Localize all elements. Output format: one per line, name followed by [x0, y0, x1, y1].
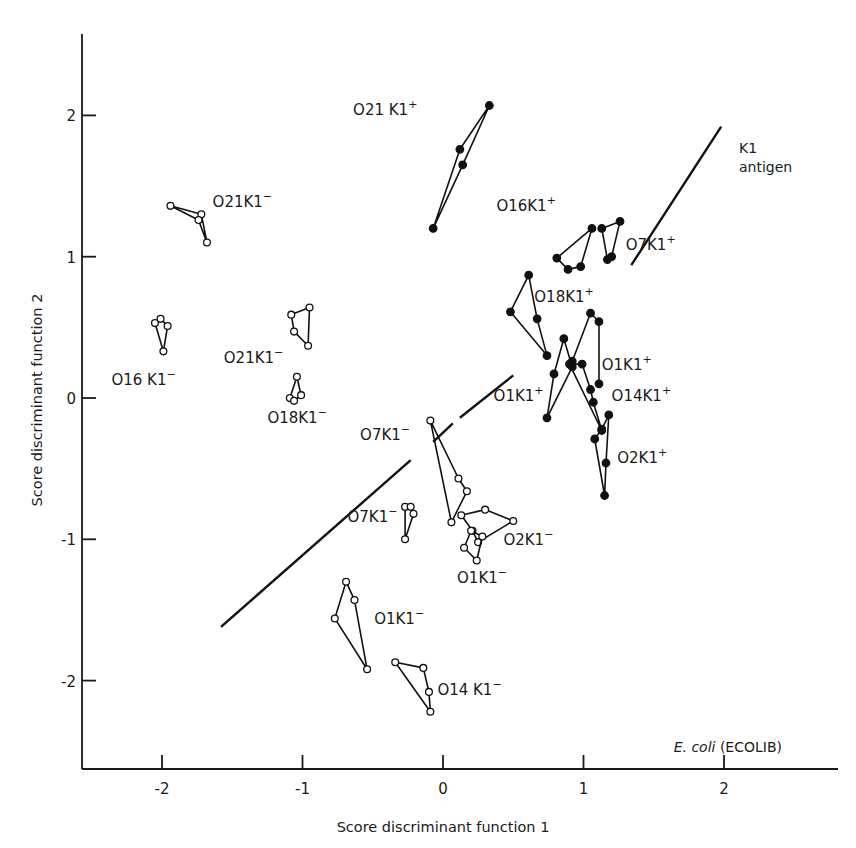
library-name: (ECOLIB)	[715, 739, 782, 755]
organism-name: E. coli	[674, 739, 716, 755]
group-o18k1: O18K1+	[507, 271, 594, 359]
open-point-marker	[426, 689, 433, 696]
group-outline	[335, 582, 367, 670]
group-o21k1-middle: O21K1−	[224, 304, 313, 367]
filled-point-marker	[595, 318, 603, 326]
group-label: O21 K1+	[353, 98, 417, 119]
filled-point-marker	[543, 414, 551, 422]
group-outline	[557, 228, 592, 269]
group-label: O2K1−	[503, 528, 553, 549]
data-groups: O21 K1+O16K1+O7K1+O18K1+O1K1+O1K1+O14K1+…	[111, 98, 675, 715]
group-label: O16 K1−	[111, 368, 175, 389]
group-label: O14K1+	[612, 384, 672, 405]
open-point-marker	[306, 304, 313, 311]
y-tick-label: 1	[66, 249, 76, 267]
filled-point-marker	[456, 146, 464, 154]
filled-point-marker	[587, 386, 595, 394]
group-label: O1K1+	[494, 384, 544, 405]
open-point-marker	[420, 664, 427, 671]
group-label: O18K1+	[534, 285, 594, 306]
open-point-marker	[298, 392, 305, 399]
open-point-marker	[427, 417, 434, 424]
group-outline	[430, 421, 467, 523]
open-point-marker	[291, 328, 298, 335]
axes	[82, 34, 838, 769]
group-label: O2K1+	[617, 446, 667, 467]
filled-point-marker	[553, 254, 561, 262]
y-tick-label: -2	[61, 673, 76, 691]
open-point-marker	[351, 597, 358, 604]
filled-point-marker	[566, 360, 574, 368]
group-outline	[547, 339, 572, 418]
filled-point-marker	[543, 352, 551, 360]
group-o21k1-upper: O21K1−	[167, 190, 272, 246]
filled-point-marker	[591, 435, 599, 443]
open-point-marker	[160, 348, 167, 355]
filled-point-marker	[459, 161, 467, 169]
filled-point-marker	[602, 459, 610, 467]
group-label: O21K1−	[213, 190, 273, 211]
filled-point-marker	[595, 380, 603, 388]
open-point-marker	[204, 239, 211, 246]
filled-point-marker	[605, 411, 613, 419]
open-point-marker	[458, 512, 465, 519]
filled-point-marker	[590, 398, 598, 406]
open-point-marker	[364, 666, 371, 673]
open-point-marker	[164, 323, 171, 330]
filled-point-marker	[533, 315, 541, 323]
group-label: O14 K1−	[437, 678, 501, 699]
open-point-marker	[392, 659, 399, 666]
open-point-marker	[482, 506, 489, 513]
filled-point-marker	[587, 309, 595, 317]
filled-point-marker	[578, 360, 586, 368]
open-point-marker	[448, 519, 455, 526]
k1-label-line1: K1	[739, 140, 757, 156]
filled-point-marker	[601, 492, 609, 500]
filled-point-marker	[598, 425, 606, 433]
filled-point-marker	[564, 266, 572, 274]
filled-point-marker	[608, 253, 616, 261]
open-point-marker	[473, 557, 480, 564]
filled-point-marker	[598, 225, 606, 233]
group-label: O16K1+	[496, 194, 556, 215]
y-tick-label: 2	[66, 107, 76, 125]
open-point-marker	[455, 475, 462, 482]
y-tick-label: -1	[61, 531, 76, 549]
group-o16k1: O16 K1−	[111, 315, 175, 389]
group-o16k1: O16K1+	[496, 194, 595, 273]
y-tick-label: 0	[66, 390, 76, 408]
k1-label-line2: antigen	[739, 159, 792, 175]
group-o14k1: O14 K1−	[392, 659, 502, 715]
open-point-marker	[291, 397, 298, 404]
y-ticks: -2-1012	[61, 107, 96, 690]
filled-point-marker	[588, 225, 596, 233]
open-point-marker	[461, 544, 468, 551]
y-axis-label: Score discriminant function 2	[29, 294, 45, 507]
x-tick-label: -1	[295, 780, 310, 798]
group-label: O1K1−	[374, 607, 424, 628]
separator-segment	[221, 460, 411, 627]
open-point-marker	[402, 536, 409, 543]
open-point-marker	[343, 578, 350, 585]
filled-point-marker	[525, 271, 533, 279]
group-o2k1: O2K1+	[591, 411, 667, 499]
open-point-marker	[288, 311, 295, 318]
x-tick-label: 1	[579, 780, 589, 798]
group-o18k1: O18K1−	[267, 373, 327, 427]
open-point-marker	[427, 708, 434, 715]
filled-point-marker	[616, 218, 624, 226]
filled-point-marker	[560, 335, 568, 343]
k1-antigen-label: K1 antigen	[739, 140, 792, 175]
open-point-marker	[157, 315, 164, 322]
open-point-marker	[331, 615, 338, 622]
open-point-marker	[468, 527, 475, 534]
filled-point-marker	[429, 225, 437, 233]
open-point-marker	[305, 342, 312, 349]
x-tick-label: 0	[438, 780, 448, 798]
open-point-marker	[463, 488, 470, 495]
group-label: O21K1−	[224, 346, 284, 367]
x-axis-label: Score discriminant function 1	[337, 819, 550, 835]
open-point-marker	[195, 217, 202, 224]
filled-point-marker	[486, 102, 494, 110]
x-ticks: -2-1012	[155, 755, 729, 798]
